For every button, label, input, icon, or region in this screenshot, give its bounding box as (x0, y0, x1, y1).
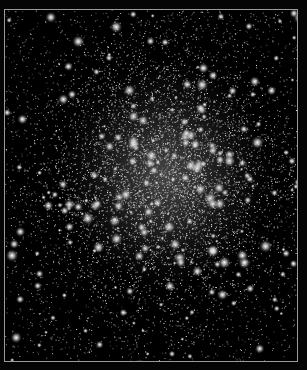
star-cluster-image (4, 9, 298, 362)
cluster-core-glow (5, 10, 297, 361)
